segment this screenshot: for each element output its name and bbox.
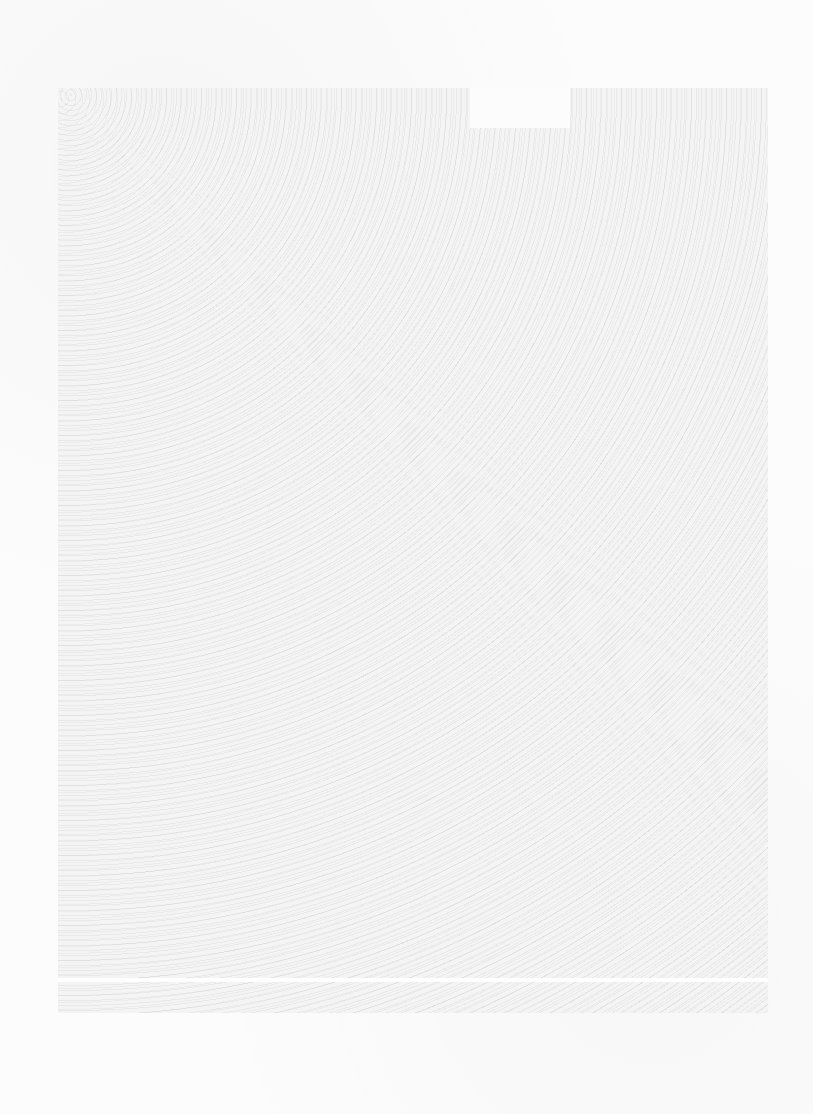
- scan-notch: [470, 88, 570, 128]
- horizontal-scan-strip: [58, 978, 768, 982]
- scanned-page: [0, 0, 813, 1114]
- speckled-scan-region: [58, 88, 768, 1013]
